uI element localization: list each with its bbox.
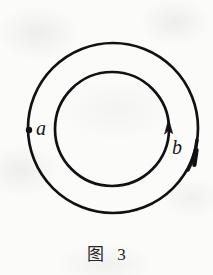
inner-circle <box>55 72 169 186</box>
caption-number: 3 <box>117 245 126 264</box>
outer-circle <box>28 43 198 213</box>
caption-label: 图 <box>87 244 104 264</box>
point-b-tick-icon <box>194 150 196 165</box>
figure-container: a b 图3 <box>0 0 213 275</box>
point-a-label: a <box>36 118 46 138</box>
figure-caption: 图3 <box>0 240 213 265</box>
point-b-label: b <box>172 137 182 157</box>
point-a-dot-icon <box>26 127 32 133</box>
